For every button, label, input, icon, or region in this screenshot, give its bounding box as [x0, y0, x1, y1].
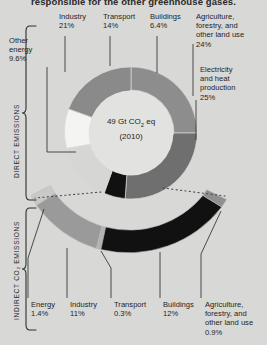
arc-slice-industry — [37, 194, 103, 249]
callout-agriculture-value: 24% — [196, 40, 211, 49]
arc-slice-buildings — [101, 195, 222, 252]
callout-indirect-energy: Energy 1.4% — [31, 300, 67, 318]
callout-industry: Industry 21% — [59, 12, 97, 30]
chart-figure: responsible for the other greenhouse gas… — [0, 0, 267, 345]
callout-buildings-name: Buildings — [150, 12, 181, 21]
callout-transport: Transport 14% — [103, 12, 145, 30]
section-label-indirect-emissions: INDIRECT CO₂ EMISSIONS — [13, 221, 20, 320]
callout-indirect-transport: Transport 0.3% — [114, 300, 158, 318]
callout-agriculture-name: Agriculture, forestry, and other land us… — [196, 12, 244, 39]
callout-transport-value: 14% — [103, 21, 118, 30]
callout-electricity-value: 25% — [200, 93, 215, 102]
section-label-direct-emissions: DIRECT EMISSIONS — [13, 104, 20, 178]
center-total: 49 Gt CO2 eq — [107, 117, 155, 126]
dotted-connector-right — [163, 188, 225, 196]
callout-indirect-energy-value: 1.4% — [31, 309, 48, 318]
callout-indirect-industry: Industry 11% — [70, 300, 108, 318]
center-year: (2010) — [119, 132, 142, 141]
callout-industry-name: Industry — [59, 12, 86, 21]
leader-b-transport — [101, 251, 111, 298]
callout-indirect-buildings: Buildings 12% — [163, 300, 203, 318]
callout-industry-value: 21% — [59, 21, 74, 30]
callout-other-energy-name: Other energy — [9, 36, 32, 54]
callout-electricity-name: Electricity and heat production — [200, 65, 235, 92]
donut-center-label: 49 Gt CO2 eq (2010) — [76, 116, 186, 142]
callout-agriculture: Agriculture, forestry, and other land us… — [196, 12, 264, 49]
callout-indirect-agriculture-value: 0.9% — [205, 328, 222, 337]
callout-buildings: Buildings 6.4% — [150, 12, 192, 30]
callout-other-energy-value: 9.6% — [9, 54, 26, 63]
section-brackets — [22, 26, 36, 330]
callout-buildings-value: 6.4% — [150, 21, 167, 30]
callout-transport-name: Transport — [103, 12, 135, 21]
callout-indirect-transport-value: 0.3% — [114, 309, 131, 318]
callout-electricity: Electricity and heat production 25% — [200, 65, 264, 102]
callout-indirect-agriculture-name: Agriculture, forestry, and other land us… — [205, 300, 253, 327]
callout-indirect-energy-name: Energy — [31, 300, 55, 309]
leader-b-energy — [28, 209, 44, 298]
callout-indirect-buildings-value: 12% — [163, 309, 178, 318]
callout-indirect-industry-name: Industry — [70, 300, 97, 309]
callout-indirect-transport-name: Transport — [114, 300, 146, 309]
callout-indirect-agriculture: Agriculture, forestry, and other land us… — [205, 300, 263, 337]
callout-indirect-industry-value: 11% — [70, 309, 85, 318]
callout-other-energy: Other energy 9.6% — [9, 36, 49, 64]
callout-indirect-buildings-name: Buildings — [163, 300, 194, 309]
